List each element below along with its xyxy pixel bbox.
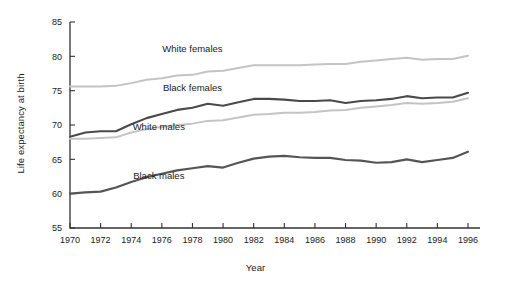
y-tick-labels: 55606570758085 [52,17,62,233]
x-tick-label: 1992 [397,235,417,245]
x-tick-label: 1986 [305,235,325,245]
series-label-black-females: Black females [163,82,222,93]
series-annotations: White femalesBlack femalesWhite malesBla… [133,43,223,180]
y-tick-label: 75 [52,86,62,96]
x-tick-label: 1978 [182,235,202,245]
x-tick-label: 1990 [366,235,386,245]
x-tick-label: 1970 [60,235,80,245]
x-tick-label: 1976 [152,235,172,245]
x-tick-label: 1988 [336,235,356,245]
x-tick-label: 1974 [121,235,141,245]
chart-canvas: 55606570758085 1970197219741976197819801… [0,0,511,289]
y-tick-label: 70 [52,120,62,130]
y-tick-label: 55 [52,223,62,233]
series-line-white-females [70,56,468,87]
life-expectancy-chart: 55606570758085 1970197219741976197819801… [0,0,511,289]
x-tick-label: 1980 [213,235,233,245]
y-tick-label: 85 [52,17,62,27]
x-tick-label: 1994 [427,235,447,245]
series-line-black-males [70,152,468,194]
x-axis-title: Year [0,262,511,273]
y-tick-label: 65 [52,155,62,165]
x-tick-label: 1972 [91,235,111,245]
x-tick-label: 1996 [458,235,478,245]
series-label-black-males: Black males [133,170,184,181]
series-label-white-males: White males [133,121,186,132]
x-tick-labels: 1970197219741976197819801982198419861988… [60,235,478,245]
y-tick-label: 80 [52,52,62,62]
data-series [70,56,468,194]
x-tick-label: 1982 [244,235,264,245]
y-tick-label: 60 [52,189,62,199]
series-label-white-females: White females [162,43,222,54]
y-axis-title: Life expectancy at birth [15,64,26,184]
x-tick-label: 1984 [274,235,294,245]
series-line-white-males [70,98,468,139]
